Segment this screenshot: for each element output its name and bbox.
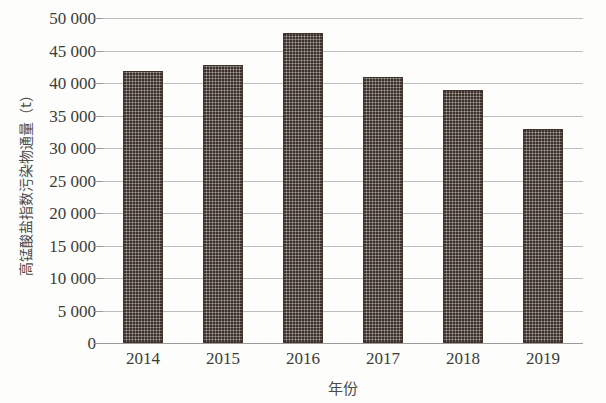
y-axis-tick-label: 10 000 xyxy=(0,270,96,287)
y-axis-tick-label: 45 000 xyxy=(0,42,96,59)
bar xyxy=(283,33,323,343)
y-axis-tick-label: 20 000 xyxy=(0,205,96,222)
bars-layer xyxy=(103,18,583,343)
y-axis-tick-label: 50 000 xyxy=(0,10,96,27)
x-axis-tick-label: 2017 xyxy=(366,350,400,367)
bar xyxy=(523,129,563,344)
bar xyxy=(363,77,403,344)
y-axis-tick-labels: 05 00010 00015 00020 00025 00030 00035 0… xyxy=(0,0,96,403)
y-axis-tick xyxy=(94,343,103,344)
x-axis-tick-label: 2015 xyxy=(206,350,240,367)
y-axis-tick-label: 15 000 xyxy=(0,237,96,254)
y-axis-tick xyxy=(94,181,103,182)
plot-area xyxy=(103,18,583,343)
x-axis-tick-label: 2018 xyxy=(446,350,480,367)
y-axis-tick-label: 25 000 xyxy=(0,172,96,189)
bar xyxy=(123,71,163,343)
y-axis-tick-label: 0 xyxy=(0,335,96,352)
y-axis-tick xyxy=(94,213,103,214)
x-axis-tick-label: 2019 xyxy=(526,350,560,367)
y-axis-tick-label: 5 000 xyxy=(0,302,96,319)
x-axis-tick-label: 2016 xyxy=(286,350,320,367)
y-axis-tick-label: 40 000 xyxy=(0,75,96,92)
bar xyxy=(203,65,243,343)
y-axis-tick xyxy=(94,148,103,149)
y-axis-tick xyxy=(94,51,103,52)
y-axis-tick xyxy=(94,83,103,84)
y-axis-tick xyxy=(94,116,103,117)
y-axis-tick xyxy=(94,246,103,247)
y-axis-tick-label: 30 000 xyxy=(0,140,96,157)
gridline xyxy=(103,343,583,344)
bar xyxy=(443,90,483,344)
y-axis-tick xyxy=(94,18,103,19)
y-axis-tick xyxy=(94,311,103,312)
y-axis-tick xyxy=(94,278,103,279)
x-axis-tick-label: 2014 xyxy=(126,350,160,367)
y-axis-tick-label: 35 000 xyxy=(0,107,96,124)
bar-chart: 高锰酸盐指数污染物通量（t） 05 00010 00015 00020 0002… xyxy=(0,0,606,403)
x-axis-tick-labels: 201420152016201720182019 xyxy=(103,350,583,376)
x-axis-title: 年份 xyxy=(103,377,583,398)
